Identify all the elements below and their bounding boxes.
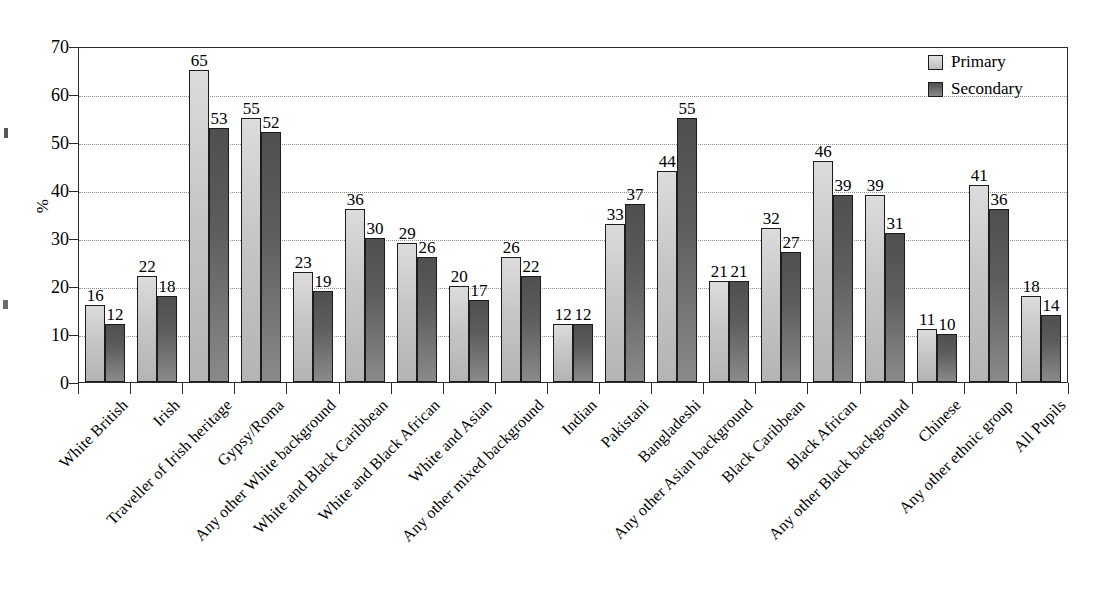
- bar-value-label: 27: [782, 234, 799, 251]
- bar-group: 5552: [235, 48, 287, 382]
- legend-item[interactable]: Secondary: [928, 79, 1023, 99]
- y-axis-tick-mark: [69, 383, 78, 384]
- bar-primary[interactable]: 20: [449, 286, 469, 382]
- bar-secondary[interactable]: 36: [989, 209, 1009, 382]
- bar-value-label: 46: [815, 143, 832, 160]
- bar-secondary[interactable]: 17: [469, 300, 489, 382]
- bar-primary[interactable]: 41: [969, 185, 989, 382]
- y-axis-tick-mark: [69, 239, 78, 240]
- x-axis-tick-mark: [807, 383, 808, 394]
- bar-secondary[interactable]: 18: [157, 296, 177, 382]
- bar-primary[interactable]: 26: [501, 257, 521, 382]
- bar-group: 6553: [183, 48, 235, 382]
- y-axis-tick-label: 20: [0, 277, 78, 298]
- x-axis-tick-mark: [391, 383, 392, 394]
- x-axis-tick-mark: [599, 383, 600, 394]
- bar-primary[interactable]: 65: [189, 70, 209, 382]
- bar-groups: 1612221865535552231936302926201726221212…: [79, 48, 1067, 382]
- x-axis-tick-mark: [339, 383, 340, 394]
- bar-secondary[interactable]: 21: [729, 281, 749, 382]
- bar-secondary[interactable]: 39: [833, 195, 853, 382]
- bar-value-label: 20: [451, 268, 468, 285]
- bar-value-label: 36: [990, 191, 1007, 208]
- bar-primary[interactable]: 32: [761, 228, 781, 382]
- legend-label: Primary: [951, 52, 1006, 72]
- bar-value-label: 36: [347, 191, 364, 208]
- bar-primary[interactable]: 21: [709, 281, 729, 382]
- x-axis-tick-mark: [495, 383, 496, 394]
- bar-value-label: 41: [971, 167, 988, 184]
- y-axis-tick-label: 40: [0, 181, 78, 202]
- x-axis-category-label: Chinese: [915, 396, 965, 446]
- bar-value-label: 22: [522, 258, 539, 275]
- chart-legend: PrimarySecondary: [928, 52, 1023, 106]
- bar-value-label: 11: [919, 311, 935, 328]
- x-axis-category-label: White British: [56, 396, 132, 472]
- legend-swatch-secondary: [928, 82, 943, 97]
- bar-secondary[interactable]: 31: [885, 233, 905, 382]
- bar-group: 1612: [79, 48, 131, 382]
- bar-value-label: 29: [399, 225, 416, 242]
- bar-primary[interactable]: 23: [293, 272, 313, 382]
- y-axis-tick-label: 10: [0, 325, 78, 346]
- bar-primary[interactable]: 22: [137, 276, 157, 382]
- bar-group: 1212: [547, 48, 599, 382]
- x-axis-tick-mark: [755, 383, 756, 394]
- bar-secondary[interactable]: 37: [625, 204, 645, 382]
- bar-value-label: 30: [366, 220, 383, 237]
- y-axis-tick-label: 30: [0, 229, 78, 250]
- bar-primary[interactable]: 11: [917, 329, 937, 382]
- x-axis-tick-mark: [547, 383, 548, 394]
- bar-value-label: 39: [834, 177, 851, 194]
- bar-value-label: 12: [555, 306, 572, 323]
- bar-value-label: 31: [886, 215, 903, 232]
- y-axis-tick-label: 70: [0, 37, 78, 58]
- bar-value-label: 33: [607, 206, 624, 223]
- bar-secondary[interactable]: 53: [209, 128, 229, 382]
- bar-secondary[interactable]: 27: [781, 252, 801, 382]
- bar-value-label: 23: [295, 254, 312, 271]
- bar-secondary[interactable]: 10: [937, 334, 957, 382]
- bar-value-label: 55: [678, 100, 695, 117]
- bar-value-label: 12: [574, 306, 591, 323]
- bar-secondary[interactable]: 12: [573, 324, 593, 382]
- bar-secondary[interactable]: 19: [313, 291, 333, 382]
- bar-secondary[interactable]: 55: [677, 118, 697, 382]
- bar-group: 2218: [131, 48, 183, 382]
- bar-primary[interactable]: 29: [397, 243, 417, 382]
- bar-secondary[interactable]: 26: [417, 257, 437, 382]
- bar-primary[interactable]: 33: [605, 224, 625, 382]
- bar-value-label: 10: [938, 316, 955, 333]
- bar-primary[interactable]: 55: [241, 118, 261, 382]
- bar-group: 3337: [599, 48, 651, 382]
- bar-primary[interactable]: 12: [553, 324, 573, 382]
- y-axis-tick-mark: [69, 335, 78, 336]
- grouped-bar-chart: % 010203040506070 1612221865535552231936…: [0, 0, 1101, 604]
- bar-group: 1814: [1015, 48, 1067, 382]
- bar-primary[interactable]: 46: [813, 161, 833, 382]
- bar-group: 3227: [755, 48, 807, 382]
- legend-item[interactable]: Primary: [928, 52, 1023, 72]
- y-axis-tick-label: 50: [0, 133, 78, 154]
- bar-primary[interactable]: 39: [865, 195, 885, 382]
- bar-primary[interactable]: 16: [85, 305, 105, 382]
- bar-value-label: 17: [470, 282, 487, 299]
- bar-value-label: 52: [262, 114, 279, 131]
- bar-primary[interactable]: 18: [1021, 296, 1041, 382]
- bar-secondary[interactable]: 12: [105, 324, 125, 382]
- x-axis-tick-mark: [651, 383, 652, 394]
- bar-secondary[interactable]: 30: [365, 238, 385, 382]
- plot-area: 1612221865535552231936302926201726221212…: [78, 47, 1068, 383]
- bar-secondary[interactable]: 52: [261, 132, 281, 382]
- bar-primary[interactable]: 36: [345, 209, 365, 382]
- bar-value-label: 37: [626, 186, 643, 203]
- x-axis-category-label: All Pupils: [1010, 396, 1070, 456]
- legend-label: Secondary: [951, 79, 1023, 99]
- bar-secondary[interactable]: 14: [1041, 315, 1061, 382]
- bar-group: 2017: [443, 48, 495, 382]
- bar-secondary[interactable]: 22: [521, 276, 541, 382]
- bar-primary[interactable]: 44: [657, 171, 677, 382]
- bar-value-label: 21: [730, 263, 747, 280]
- bar-group: 4639: [807, 48, 859, 382]
- bar-group: 4455: [651, 48, 703, 382]
